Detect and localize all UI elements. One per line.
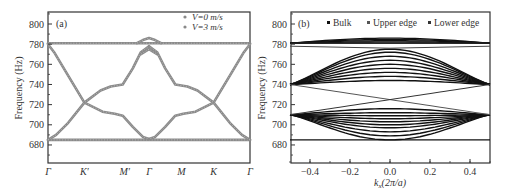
y-tick-label: 680	[272, 139, 287, 150]
y-tick-label: 780	[272, 39, 287, 50]
y-tick-label: 700	[272, 119, 287, 130]
y-tick-label: 800	[272, 19, 287, 30]
legend-label-v3: V=3 m/s	[192, 22, 223, 32]
x-tick-label: K	[209, 166, 218, 177]
bulk-lower-band	[290, 115, 490, 116]
curve-band-up-right	[149, 46, 250, 140]
legend-label-lower-edge: Lower edge	[434, 18, 479, 28]
y-tick-label: 800	[29, 19, 44, 30]
y-tick-label: 740	[29, 79, 44, 90]
panel-a-y-axis-label: Frequency (Hz)	[13, 56, 25, 119]
panel-b-label: (b)	[298, 18, 310, 30]
panel-b-x-ticks: −0.4−0.20.00.20.4	[290, 159, 490, 177]
panel-a-plot: 680700720740760780800 ΓK′M′ΓMKΓ (a) V=0 …	[13, 12, 253, 177]
legend-marker-bulk	[327, 21, 330, 24]
x-tick-label: M	[176, 166, 186, 177]
x-tick-label: Γ	[246, 166, 253, 177]
panel-a-legend: V=0 m/s V=3 m/s	[183, 12, 223, 32]
top-edge-line	[290, 46, 490, 48]
curve-band-up-left	[48, 46, 149, 140]
legend-marker-upper-edge	[367, 21, 370, 24]
y-tick-label: 720	[272, 99, 287, 110]
x-tick-label: Γ	[44, 166, 51, 177]
panel-b-legend: Bulk Upper edge Lower edge	[327, 18, 479, 28]
y-tick-label: 740	[272, 79, 287, 90]
x-tick-label: 0.4	[464, 166, 477, 177]
y-tick-label: 720	[29, 99, 44, 110]
panel-a-x-ticks: ΓK′M′ΓMKΓ	[44, 166, 253, 177]
x-tick-label: 0.0	[384, 166, 397, 177]
y-tick-label: 780	[29, 39, 44, 50]
legend-marker-lower-edge	[428, 21, 431, 24]
x-tick-label: M′	[118, 166, 130, 177]
legend-marker-v0	[183, 15, 186, 18]
panel-b-x-axis-label: kx(2π/a)	[374, 177, 407, 190]
x-tick-label: K′	[79, 166, 90, 177]
figure: 680700720740760780800 ΓK′M′ΓMKΓ (a) V=0 …	[0, 0, 510, 192]
x-tick-label: Γ	[145, 166, 152, 177]
panel-a-curves	[48, 38, 250, 140]
panel-b-plot: 680700720740760780800 −0.4−0.20.00.20.4 …	[256, 12, 490, 190]
y-tick-label: 760	[272, 59, 287, 70]
y-tick-label: 700	[29, 119, 44, 130]
x-tick-label: −0.4	[301, 166, 319, 177]
legend-label-v0: V=0 m/s	[192, 12, 223, 22]
y-tick-label: 680	[29, 139, 44, 150]
legend-label-upper-edge: Upper edge	[373, 18, 417, 28]
legend-label-bulk: Bulk	[333, 18, 352, 28]
panel-a-label: (a)	[56, 18, 67, 30]
panel-b-curves	[290, 38, 490, 140]
x-tick-label: −0.2	[341, 166, 359, 177]
x-tick-label: 0.2	[424, 166, 437, 177]
panel-b-y-axis-label: Frequency (Hz)	[256, 56, 268, 119]
legend-marker-v3	[183, 25, 186, 28]
y-tick-label: 760	[29, 59, 44, 70]
